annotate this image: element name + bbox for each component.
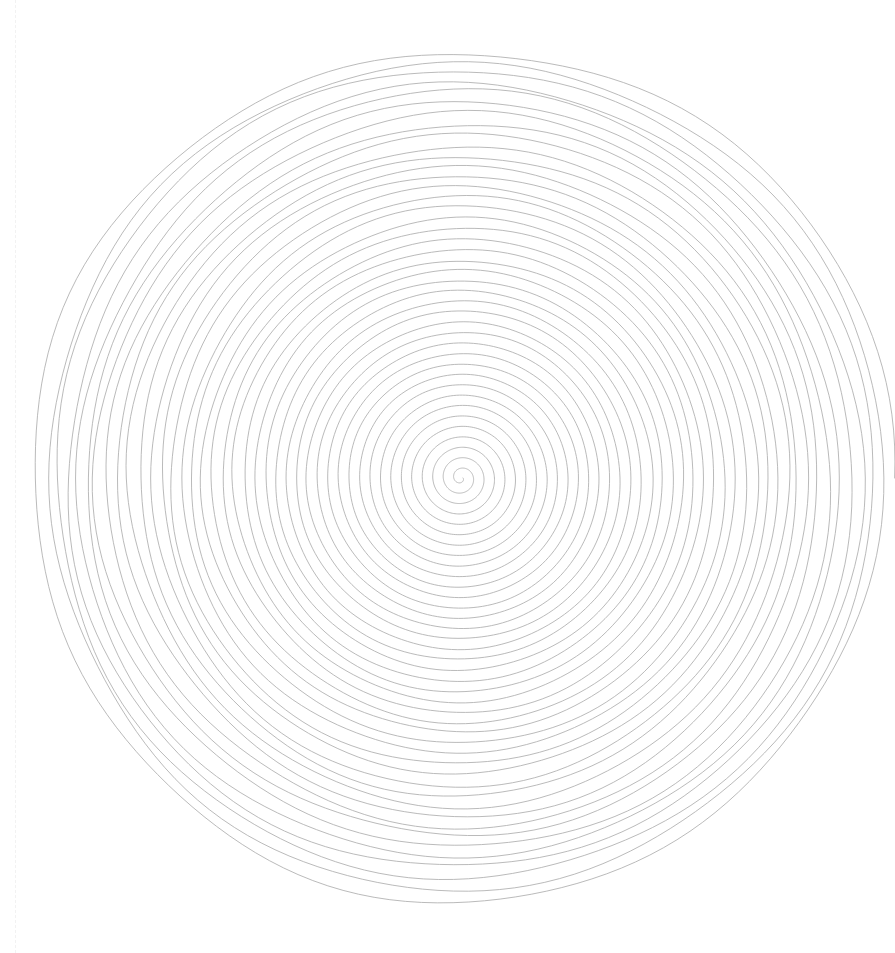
spiral-line-path bbox=[35, 55, 895, 903]
spiral-figure bbox=[0, 0, 895, 953]
spiral-canvas: Concentric Spiral Line Drawing bbox=[0, 0, 895, 953]
